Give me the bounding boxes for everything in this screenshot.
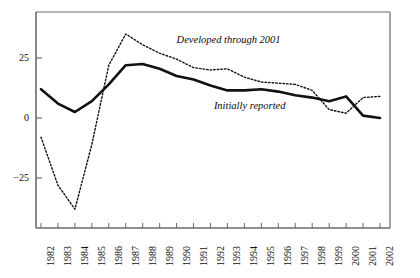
annotation-1: Initially reported (214, 100, 286, 111)
x-tick-label-1983: 1983 (62, 246, 73, 266)
x-tick-label-1994: 1994 (248, 246, 259, 266)
x-tick-label-2001: 2001 (367, 246, 378, 266)
x-tick-label-1990: 1990 (181, 246, 192, 266)
x-tick-label-1998: 1998 (316, 246, 327, 266)
y-tick-label-0: 25 (3, 52, 29, 63)
x-tick-label-1995: 1995 (265, 246, 276, 266)
x-tick-label-1989: 1989 (164, 246, 175, 266)
x-tick-label-1988: 1988 (147, 246, 158, 266)
x-tick-label-1986: 1986 (113, 246, 124, 266)
x-tick-label-1997: 1997 (299, 246, 310, 266)
annotation-0: Developed through 2001 (177, 34, 281, 45)
x-tick-label-1987: 1987 (130, 246, 141, 266)
x-tick-label-1984: 1984 (79, 246, 90, 266)
x-tick-label-1991: 1991 (198, 246, 209, 266)
x-tick-label-2002: 2002 (384, 246, 395, 266)
x-tick-label-1985: 1985 (96, 246, 107, 266)
x-tick-label-1982: 1982 (45, 246, 56, 266)
y-tick-label-2: −25 (3, 172, 29, 183)
x-tick-label-1993: 1993 (231, 246, 242, 266)
x-tick-label-2000: 2000 (350, 246, 361, 266)
chart-figure: 250−25 198219831984198519861987198819891… (0, 0, 420, 278)
x-tick-label-1999: 1999 (333, 246, 344, 266)
y-tick-label-1: 0 (3, 112, 29, 123)
x-tick-label-1992: 1992 (215, 246, 226, 266)
x-tick-label-1996: 1996 (282, 246, 293, 266)
